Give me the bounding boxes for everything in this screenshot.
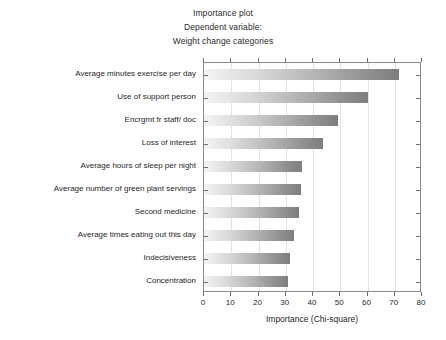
category-tick-right	[416, 98, 420, 99]
x-axis-tick-top	[312, 58, 313, 62]
x-axis-tick-label: 40	[300, 298, 324, 307]
category-label: Loss of interest	[142, 131, 196, 154]
bar	[204, 138, 323, 149]
x-axis-tick	[258, 292, 259, 296]
category-tick-right	[416, 190, 420, 191]
category-label: Average times eating out this day	[78, 223, 196, 246]
bar-row	[204, 109, 422, 132]
x-axis-tick-label: 80	[409, 298, 433, 307]
category-tick-right	[416, 75, 420, 76]
category-tick	[204, 121, 208, 122]
bar	[204, 161, 302, 172]
x-axis-tick-label: 70	[382, 298, 406, 307]
x-axis-tick	[394, 292, 395, 296]
x-axis-tick-top	[394, 58, 395, 62]
category-tick-right	[416, 144, 420, 145]
bar-row	[204, 201, 422, 224]
bar-row	[204, 270, 422, 293]
x-axis-tick	[421, 292, 422, 296]
category-tick-right	[416, 236, 420, 237]
x-axis-tick-top	[258, 58, 259, 62]
x-axis-tick	[312, 292, 313, 296]
chart-title-line-3: Weight change categories	[0, 34, 446, 48]
importance-bar-chart: Importance plot Dependent variable: Weig…	[0, 0, 446, 340]
category-tick-right	[416, 213, 420, 214]
category-tick	[204, 144, 208, 145]
category-tick	[204, 213, 208, 214]
bar-row	[204, 86, 422, 109]
x-axis-tick	[367, 292, 368, 296]
x-axis-title: Importance (Chi-square)	[203, 314, 421, 324]
x-axis-tick-top	[203, 58, 204, 62]
x-axis-tick-label: 30	[273, 298, 297, 307]
chart-title-line-1: Importance plot	[0, 6, 446, 20]
category-tick	[204, 167, 208, 168]
chart-title-line-2: Dependent variable:	[0, 20, 446, 34]
x-axis-tick	[230, 292, 231, 296]
x-axis-tick-label: 10	[218, 298, 242, 307]
bar-row	[204, 247, 422, 270]
category-tick	[204, 98, 208, 99]
bar-row	[204, 178, 422, 201]
x-axis-tick-label: 20	[246, 298, 270, 307]
x-axis-tick-top	[339, 58, 340, 62]
x-axis-tick-top	[285, 58, 286, 62]
category-tick	[204, 282, 208, 283]
x-axis-tick-top	[421, 58, 422, 62]
chart-title-block: Importance plot Dependent variable: Weig…	[0, 6, 446, 48]
x-axis-tick-label: 50	[327, 298, 351, 307]
category-label: Concentration	[146, 269, 196, 292]
category-label: Average hours of sleep per night	[81, 154, 196, 177]
category-tick	[204, 75, 208, 76]
plot-area	[203, 62, 421, 292]
bar-row	[204, 155, 422, 178]
x-axis-tick-top	[367, 58, 368, 62]
category-label: Use of support person	[117, 85, 196, 108]
bars-layer	[204, 63, 420, 291]
x-axis-tick-top	[230, 58, 231, 62]
bar	[204, 207, 299, 218]
bar	[204, 69, 399, 80]
bar	[204, 253, 290, 264]
x-axis-tick-label: 60	[355, 298, 379, 307]
bar-row	[204, 63, 422, 86]
category-tick	[204, 259, 208, 260]
category-label: Encrgmt fr staff/ doc	[125, 108, 196, 131]
category-label: Average minutes exercise per day	[75, 62, 196, 85]
category-tick	[204, 236, 208, 237]
bar	[204, 184, 301, 195]
bar	[204, 230, 294, 241]
category-label: Average number of green plant servings	[54, 177, 196, 200]
bar	[204, 115, 338, 126]
category-label: Second medicine	[135, 200, 196, 223]
x-axis-tick	[339, 292, 340, 296]
category-tick-right	[416, 167, 420, 168]
category-tick-right	[416, 282, 420, 283]
bar-row	[204, 224, 422, 247]
bar-row	[204, 132, 422, 155]
category-label: Indecisiveness	[144, 246, 196, 269]
bar	[204, 92, 368, 103]
x-axis-tick	[203, 292, 204, 296]
category-axis-labels: Average minutes exercise per dayUse of s…	[0, 62, 196, 292]
bar	[204, 276, 288, 287]
x-axis-tick	[285, 292, 286, 296]
category-tick	[204, 190, 208, 191]
x-axis-tick-label: 0	[191, 298, 215, 307]
category-tick-right	[416, 121, 420, 122]
category-tick-right	[416, 259, 420, 260]
